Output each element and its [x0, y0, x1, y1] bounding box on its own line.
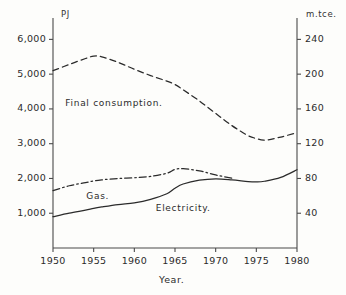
right-tick-label-200: 200	[305, 68, 324, 79]
right-tick-label-240: 240	[305, 33, 324, 44]
left-tick-label-5000: 5,000	[17, 68, 46, 79]
left-tick-label-1000: 1,000	[17, 207, 46, 218]
x-tick-label-1970: 1970	[198, 255, 234, 266]
annotation-final-consumption: Final consumption.	[65, 98, 162, 108]
axis-lines	[49, 18, 301, 252]
right-axis-unit-label: m.tce.	[306, 9, 337, 19]
x-tick-label-1975: 1975	[238, 255, 274, 266]
right-tick-label-80: 80	[305, 172, 318, 183]
left-axis-unit-label: PJ	[61, 9, 70, 19]
left-tick-label-3000: 3,000	[17, 137, 46, 148]
line-chart-plot	[0, 0, 346, 295]
left-tick-label-6000: 6,000	[17, 33, 46, 44]
chart-container: PJ m.tce. 1,0002,0003,0004,0005,0006,000…	[0, 0, 346, 295]
right-tick-label-160: 160	[305, 102, 324, 113]
x-tick-label-1965: 1965	[157, 255, 193, 266]
right-tick-label-40: 40	[305, 207, 318, 218]
x-tick-label-1960: 1960	[116, 255, 152, 266]
x-tick-label-1950: 1950	[35, 255, 71, 266]
annotation-gas: Gas.	[86, 191, 109, 201]
x-tick-label-1980: 1980	[279, 255, 315, 266]
x-tick-label-1955: 1955	[76, 255, 112, 266]
annotation-electricity: Electricity.	[156, 203, 211, 213]
right-tick-label-120: 120	[305, 137, 324, 148]
x-axis-title: Year.	[159, 274, 184, 285]
left-tick-label-2000: 2,000	[17, 172, 46, 183]
left-tick-label-4000: 4,000	[17, 102, 46, 113]
